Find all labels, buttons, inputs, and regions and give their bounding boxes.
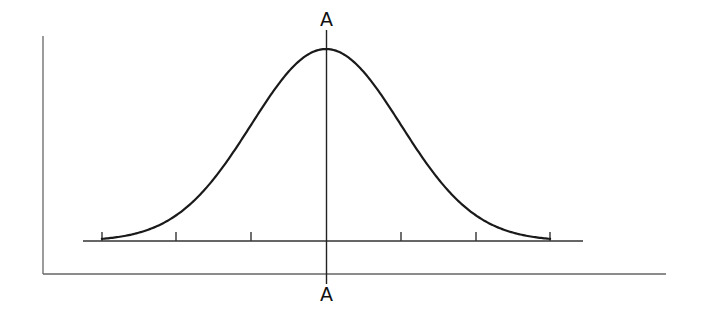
top-label-a: A: [320, 8, 333, 30]
normal-distribution-diagram: A A: [0, 0, 701, 313]
bottom-label-a: A: [320, 283, 333, 305]
